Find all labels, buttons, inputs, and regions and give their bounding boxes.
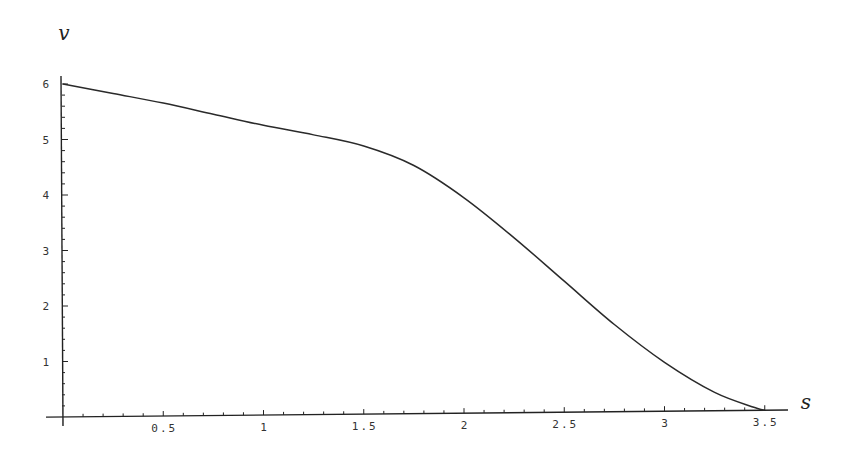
x-axis-line [46,410,788,417]
x-tick-label: 2 [461,419,470,432]
y-tick-label: 6 [42,78,49,91]
y-tick-label: 2 [42,300,49,313]
x-axis-title: s [801,390,811,414]
y-axis: 123456 v [42,21,70,426]
y-axis-title: v [58,21,70,45]
y-ticks: 123456 [42,78,68,406]
y-tick-label: 3 [42,245,49,258]
data-curve [63,84,765,410]
x-ticks: 0.511.522.533.5 [83,405,779,435]
x-tick-label: 1 [260,421,269,434]
line-chart: 123456 v 0.511.522.533.5 s [0,0,847,463]
x-tick-label: 3.5 [753,416,779,429]
x-axis: 0.511.522.533.5 s [46,390,811,435]
y-tick-label: 5 [42,134,49,147]
y-tick-label: 1 [42,356,49,369]
y-tick-label: 4 [42,189,49,202]
x-tick-label: 0.5 [151,422,177,435]
x-tick-label: 2.5 [552,418,578,431]
x-tick-label: 3 [661,417,670,430]
x-tick-label: 1.5 [352,420,378,433]
